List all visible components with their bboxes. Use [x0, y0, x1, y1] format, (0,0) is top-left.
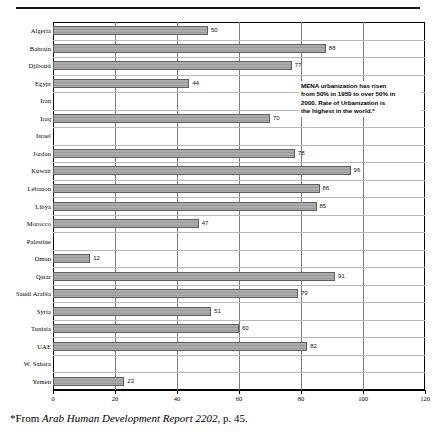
bar-value-jordan: 78: [298, 149, 305, 158]
xtick-0: [53, 390, 54, 394]
bar-value-djibouti: 77: [295, 61, 302, 70]
row-separator: [53, 40, 425, 41]
annotation-line-3: 2000. Rate of Urbanization is: [301, 99, 419, 107]
bar-value-syria: 51: [214, 307, 221, 316]
bar-qatar: [53, 272, 335, 281]
row-separator: [53, 372, 425, 373]
bar-uae: [53, 342, 307, 351]
annotation-line-2: from 50% in 1950 to over 50% in: [301, 90, 419, 98]
row-separator: [53, 302, 425, 303]
bar-value-qatar: 91: [338, 272, 345, 281]
xtick-120: [425, 390, 426, 394]
category-label-morocco: Morocco: [1, 220, 51, 227]
category-label-uae: UAE: [1, 343, 51, 350]
bar-saudi-arabia: [53, 289, 298, 298]
category-label-saudi-arabia: Saudi Arabia: [1, 290, 51, 297]
bar-bahrain: [53, 44, 326, 53]
bar-lebanon: [53, 184, 320, 193]
category-label-qatar: Qatar: [1, 273, 51, 280]
bar-jordan: [53, 149, 295, 158]
annotation-line-1: MENA urbanization has risen: [301, 82, 419, 90]
bar-value-yemen: 23: [127, 377, 134, 386]
bar-value-egypt: 44: [192, 79, 199, 88]
row-separator: [53, 197, 425, 198]
category-label-yemen: Yemen: [1, 378, 51, 385]
xtick-label-100: 100: [358, 395, 368, 403]
category-label-palestine: Palestine: [1, 238, 51, 245]
xtick-20: [115, 390, 116, 394]
bar-value-tunisia: 60: [242, 324, 249, 333]
xtick-label-0: 0: [51, 395, 54, 403]
bar-iraq: [53, 114, 270, 123]
row-separator: [53, 267, 425, 268]
category-label-iraq: Iraq: [1, 115, 51, 122]
bar-syria: [53, 307, 211, 316]
row-separator: [53, 337, 425, 338]
footnote-prefix: *From: [10, 412, 42, 424]
bar-tunisia: [53, 324, 239, 333]
xtick-label-20: 20: [112, 395, 119, 403]
footnote-source-title: Arab Human Development Report 2202: [42, 412, 217, 424]
category-label-bahrain: Bahrain: [1, 45, 51, 52]
category-label-libya: Libya: [1, 203, 51, 210]
category-label-jordan: Jordan: [1, 150, 51, 157]
bar-value-kuwait: 96: [354, 166, 361, 175]
footnote-suffix: , p. 45.: [217, 412, 247, 424]
category-label-oman: Oman: [1, 255, 51, 262]
xtick-label-60: 60: [236, 395, 243, 403]
xtick-label-120: 120: [420, 395, 430, 403]
bar-algeria: [53, 26, 208, 35]
gridline-100: [363, 22, 364, 390]
row-separator: [53, 180, 425, 181]
category-label-lebanon: Lebanon: [1, 185, 51, 192]
bar-egypt: [53, 79, 189, 88]
bar-kuwait: [53, 166, 351, 175]
row-separator: [53, 75, 425, 76]
row-separator: [53, 320, 425, 321]
bar-value-iraq: 70: [273, 114, 280, 123]
bar-oman: [53, 254, 90, 263]
category-label-djibouti: Djibouti: [1, 62, 51, 69]
category-label-egypt: Egypt: [1, 80, 51, 87]
bar-value-saudi-arabia: 79: [301, 289, 308, 298]
category-label-tunisia: Tunisia: [1, 325, 51, 332]
bar-yemen: [53, 377, 124, 386]
row-separator: [53, 215, 425, 216]
bar-morocco: [53, 219, 199, 228]
xtick-60: [239, 390, 240, 394]
category-label-kuwait: Kuwait: [1, 167, 51, 174]
bar-value-bahrain: 88: [329, 44, 336, 53]
bar-value-oman: 12: [93, 254, 100, 263]
row-separator: [53, 285, 425, 286]
xtick-40: [177, 390, 178, 394]
xtick-label-80: 80: [298, 395, 305, 403]
bar-value-uae: 82: [310, 342, 317, 351]
mena-urbanization-annotation: MENA urbanization has risenfrom 50% in 1…: [299, 81, 421, 117]
row-separator: [53, 145, 425, 146]
row-separator: [53, 127, 425, 128]
xtick-label-40: 40: [174, 395, 181, 403]
category-label-syria: Syria: [1, 308, 51, 315]
bar-value-algeria: 50: [211, 26, 218, 35]
bar-value-lebanon: 86: [323, 184, 330, 193]
urbanization-bar-chart: AlgeriaBahrainDjiboutiEgyptIranIraqIsrae…: [0, 18, 436, 398]
bar-libya: [53, 202, 317, 211]
category-label-w-sahara: W. Sahara: [1, 360, 51, 367]
row-separator: [53, 250, 425, 251]
row-separator: [53, 57, 425, 58]
annotation-line-4: the highest in the world.*: [301, 107, 419, 115]
xtick-80: [301, 390, 302, 394]
top-horizontal-rule: [16, 7, 420, 9]
category-label-algeria: Algeria: [1, 27, 51, 34]
footnote: *From Arab Human Development Report 2202…: [10, 411, 248, 425]
category-label-iran: Iran: [1, 97, 51, 104]
xtick-100: [363, 390, 364, 394]
bar-value-libya: 85: [320, 202, 327, 211]
bar-djibouti: [53, 61, 292, 70]
row-separator: [53, 355, 425, 356]
row-separator: [53, 162, 425, 163]
category-label-israel: Israel: [1, 132, 51, 139]
row-separator: [53, 232, 425, 233]
bar-value-morocco: 47: [202, 219, 209, 228]
